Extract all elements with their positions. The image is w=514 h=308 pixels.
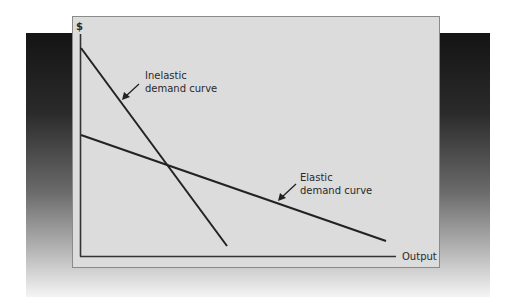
inelastic-label-line1: Inelastic <box>145 70 187 81</box>
x-axis-label: Output <box>402 251 437 262</box>
elastic-arrow-icon <box>278 184 296 201</box>
elastic-label-line2: demand curve <box>300 185 372 196</box>
inelastic-arrow-icon <box>122 84 139 100</box>
elastic-label-line1: Elastic <box>300 172 333 183</box>
demand-curve-chart: $ Output Inelastic demand curve Elastic … <box>0 0 514 308</box>
inelastic-label-line2: demand curve <box>145 83 217 94</box>
y-axis-label: $ <box>76 21 83 32</box>
